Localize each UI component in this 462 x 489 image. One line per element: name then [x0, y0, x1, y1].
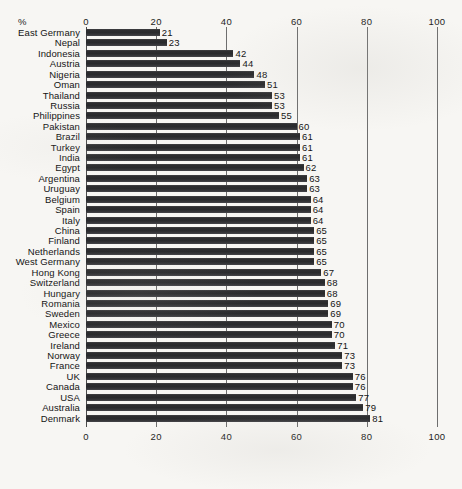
bar-row: Brazil61	[0, 133, 462, 140]
bar[interactable]	[86, 290, 325, 297]
bar-value-label: 67	[323, 267, 334, 278]
category-label: East Germany	[18, 27, 80, 38]
bar[interactable]	[86, 415, 370, 422]
bar[interactable]	[86, 123, 297, 130]
bar[interactable]	[86, 164, 304, 171]
category-label: Australia	[42, 402, 80, 413]
bar-row: Australia79	[0, 404, 462, 411]
bar-row: UK76	[0, 373, 462, 380]
category-label: Russia	[50, 100, 80, 111]
bar[interactable]	[86, 81, 265, 88]
bar-value-label: 44	[242, 58, 253, 69]
bar-value-label: 61	[302, 152, 313, 163]
bar-row: Austria44	[0, 60, 462, 67]
bar-row: Argentina63	[0, 175, 462, 182]
bar[interactable]	[86, 248, 314, 255]
bar[interactable]	[86, 310, 328, 317]
category-label: Argentina	[38, 173, 80, 184]
bar-row: Oman51	[0, 81, 462, 88]
xtick-label-top-0: 0	[66, 16, 106, 27]
xtick-label-bottom-60: 60	[277, 431, 317, 442]
bar[interactable]	[86, 175, 307, 182]
bar-value-label: 61	[302, 131, 313, 142]
category-label: China	[55, 225, 80, 236]
bar[interactable]	[86, 196, 311, 203]
bar[interactable]	[86, 112, 279, 119]
bar[interactable]	[86, 383, 353, 390]
bar[interactable]	[86, 71, 254, 78]
bar-row: Pakistan60	[0, 123, 462, 130]
bar[interactable]	[86, 404, 363, 411]
bar[interactable]	[86, 133, 300, 140]
bar[interactable]	[86, 258, 314, 265]
bar-value-label: 53	[274, 90, 285, 101]
bar-row: Ireland71	[0, 342, 462, 349]
category-label: Switzerland	[30, 277, 80, 288]
bar-row: Thailand53	[0, 92, 462, 99]
bar[interactable]	[86, 39, 167, 46]
xtick-label-top-100: 100	[417, 16, 457, 27]
bar-value-label: 23	[169, 37, 180, 48]
category-label: Philippines	[33, 110, 80, 121]
category-label: Sweden	[45, 308, 80, 319]
bar[interactable]	[86, 92, 272, 99]
bar[interactable]	[86, 102, 272, 109]
bar[interactable]	[86, 331, 332, 338]
bar-value-label: 64	[313, 204, 324, 215]
bar[interactable]	[86, 394, 356, 401]
category-label: Italy	[62, 215, 80, 226]
bar-value-label: 69	[330, 308, 341, 319]
xtick-label-bottom-20: 20	[136, 431, 176, 442]
bar-value-label: 76	[355, 371, 366, 382]
xtick-label-bottom-100: 100	[417, 431, 457, 442]
bar[interactable]	[86, 342, 335, 349]
bar-row: India61	[0, 154, 462, 161]
bar-value-label: 51	[267, 79, 278, 90]
bar[interactable]	[86, 144, 300, 151]
bar-row: Hong Kong67	[0, 269, 462, 276]
bar-row: Nigeria48	[0, 71, 462, 78]
bar[interactable]	[86, 185, 307, 192]
category-label: Denmark	[41, 413, 80, 424]
bar[interactable]	[86, 29, 160, 36]
bar[interactable]	[86, 154, 300, 161]
bar-value-label: 70	[334, 329, 345, 340]
bar[interactable]	[86, 321, 332, 328]
xtick-label-top-60: 60	[277, 16, 317, 27]
bar[interactable]	[86, 50, 233, 57]
category-label: Norway	[47, 350, 80, 361]
bar-row: Finland65	[0, 237, 462, 244]
bar-value-label: 71	[337, 340, 348, 351]
bar[interactable]	[86, 237, 314, 244]
category-label: Nigeria	[49, 69, 80, 80]
bar-row: Philippines55	[0, 112, 462, 119]
bar-row: Egypt62	[0, 164, 462, 171]
bar[interactable]	[86, 279, 325, 286]
category-label: Uruguay	[43, 183, 80, 194]
bar-value-label: 65	[316, 246, 327, 257]
bar[interactable]	[86, 269, 321, 276]
bar[interactable]	[86, 373, 353, 380]
bar-row: Spain64	[0, 206, 462, 213]
bar-row: Netherlands65	[0, 248, 462, 255]
bar-row: Uruguay63	[0, 185, 462, 192]
bar-row: Hungary68	[0, 290, 462, 297]
bar[interactable]	[86, 206, 311, 213]
bar-value-label: 55	[281, 110, 292, 121]
bar[interactable]	[86, 300, 328, 307]
bar-row: Switzerland68	[0, 279, 462, 286]
bar[interactable]	[86, 60, 240, 67]
bar-value-label: 69	[330, 298, 341, 309]
category-label: Turkey	[51, 142, 80, 153]
category-label: Hong Kong	[32, 267, 80, 278]
bar[interactable]	[86, 362, 342, 369]
bar[interactable]	[86, 227, 314, 234]
bar-value-label: 62	[306, 162, 317, 173]
bar-value-label: 42	[235, 48, 246, 59]
category-label: Indonesia	[38, 48, 80, 59]
bar[interactable]	[86, 217, 311, 224]
bar-value-label: 73	[344, 360, 355, 371]
bar[interactable]	[86, 352, 342, 359]
bar-row: Greece70	[0, 331, 462, 338]
xtick-label-bottom-0: 0	[66, 431, 106, 442]
